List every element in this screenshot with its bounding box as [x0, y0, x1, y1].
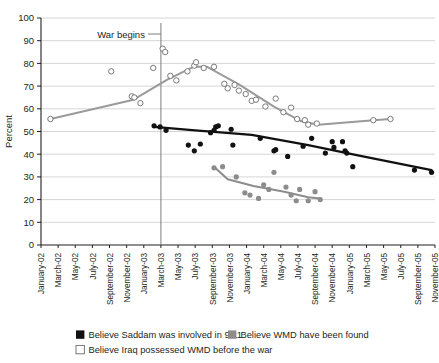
data-point-saddam-911 [412, 167, 417, 172]
x-tick-label: May-05 [380, 253, 389, 281]
x-tick-label: January-03 [140, 253, 149, 294]
data-point-iraq-possessed-wmd [201, 65, 206, 70]
data-point-wmd-found [306, 198, 311, 203]
y-tick-label: 50 [23, 126, 34, 137]
x-tick-label: July-02 [89, 253, 98, 280]
data-point-wmd-found [271, 170, 276, 175]
data-point-iraq-possessed-wmd [288, 105, 293, 110]
data-point-wmd-found [283, 185, 288, 190]
data-point-saddam-911 [285, 154, 290, 159]
data-point-iraq-possessed-wmd [306, 122, 311, 127]
x-tick-label: May-03 [174, 253, 183, 281]
data-point-iraq-possessed-wmd [236, 88, 241, 93]
title-strip [0, 0, 439, 8]
data-point-saddam-911 [273, 147, 278, 152]
data-point-wmd-found [242, 190, 247, 195]
data-point-iraq-possessed-wmd [132, 95, 137, 100]
x-tick-label: January-05 [346, 253, 355, 294]
data-point-iraq-possessed-wmd [281, 110, 286, 115]
y-tick-label: 70 [23, 81, 34, 92]
trend-line-wmd-found [214, 167, 320, 199]
data-point-saddam-911 [151, 123, 156, 128]
data-point-iraq-possessed-wmd [211, 64, 216, 69]
data-point-saddam-911 [163, 128, 168, 133]
data-point-wmd-found [294, 198, 299, 203]
chart-container: 0102030405060708090100PercentJanuary-02M… [0, 0, 439, 363]
data-point-iraq-possessed-wmd [253, 97, 258, 102]
data-point-saddam-911 [186, 143, 191, 148]
y-tick-label: 10 [23, 217, 34, 228]
data-point-saddam-911 [301, 144, 306, 149]
data-point-iraq-possessed-wmd [109, 69, 114, 74]
y-tick-label: 0 [29, 239, 34, 250]
y-tick-label: 90 [23, 35, 34, 46]
trend-line-iraq-possessed-wmd [50, 67, 390, 125]
series-saddam-911 [154, 127, 432, 170]
data-point-wmd-found [289, 192, 294, 197]
x-tick-label: March-03 [157, 253, 166, 288]
data-point-wmd-found [247, 192, 252, 197]
data-point-iraq-possessed-wmd [138, 100, 143, 105]
data-point-iraq-possessed-wmd [273, 96, 278, 101]
legend-label-wmd-found: Believe WMD have been found [241, 330, 369, 340]
data-point-wmd-found [220, 164, 225, 169]
x-tick-label: November-04 [328, 253, 337, 303]
data-point-saddam-911 [309, 136, 314, 141]
data-point-saddam-911 [157, 124, 162, 129]
data-point-iraq-possessed-wmd [243, 91, 248, 96]
data-point-iraq-possessed-wmd [232, 82, 237, 87]
data-point-saddam-911 [198, 141, 203, 146]
poll-trends-scatter-chart: 0102030405060708090100PercentJanuary-02M… [0, 0, 439, 363]
y-tick-label: 40 [23, 149, 34, 160]
legend-swatch-iraq-possessed-wmd [76, 345, 84, 353]
data-point-saddam-911 [344, 150, 349, 155]
x-tick-label: September-05 [414, 253, 423, 305]
legend-label-iraq-possessed-wmd: Believe Iraq possessed WMD before the wa… [89, 345, 273, 355]
series-wmd-found [214, 167, 320, 199]
data-point-wmd-found [256, 196, 261, 201]
y-tick-label: 80 [23, 58, 34, 69]
data-point-iraq-possessed-wmd [388, 116, 393, 121]
y-axis-title: Percent [3, 115, 14, 148]
x-tick-label: July-04 [294, 253, 303, 280]
data-point-iraq-possessed-wmd [168, 73, 173, 78]
y-tick-label: 30 [23, 171, 34, 182]
data-point-saddam-911 [216, 123, 221, 128]
data-point-iraq-possessed-wmd [193, 60, 198, 65]
data-point-saddam-911 [429, 170, 434, 175]
data-point-saddam-911 [340, 139, 345, 144]
trend-line-saddam-911 [154, 127, 432, 170]
data-point-iraq-possessed-wmd [185, 69, 190, 74]
data-point-saddam-911 [323, 150, 328, 155]
data-point-saddam-911 [330, 139, 335, 144]
x-tick-label: July-05 [397, 253, 406, 280]
data-point-saddam-911 [230, 143, 235, 148]
chart-legend: Believe Saddam was involved in 9/11Belie… [76, 330, 369, 355]
y-tick-label: 20 [23, 194, 34, 205]
x-tick-label: September-02 [106, 253, 115, 305]
data-point-saddam-911 [331, 145, 336, 150]
x-tick-label: November-05 [431, 253, 439, 303]
data-point-iraq-possessed-wmd [371, 117, 376, 122]
legend-swatch-saddam-911 [76, 330, 84, 338]
data-point-wmd-found [297, 187, 302, 192]
data-point-saddam-911 [258, 136, 263, 141]
legend-swatch-wmd-found [228, 330, 236, 338]
points-iraq-possessed-wmd [48, 46, 393, 127]
x-tick-label: May-04 [277, 253, 286, 281]
x-tick-label: January-04 [243, 253, 252, 294]
series-iraq-possessed-wmd [50, 67, 390, 125]
data-point-iraq-possessed-wmd [163, 49, 168, 54]
legend-label-saddam-911: Believe Saddam was involved in 9/11 [89, 330, 242, 340]
data-point-iraq-possessed-wmd [174, 78, 179, 83]
data-point-saddam-911 [192, 148, 197, 153]
data-point-wmd-found [318, 197, 323, 202]
x-tick-label: March-05 [363, 253, 372, 288]
data-point-iraq-possessed-wmd [294, 116, 299, 121]
x-tick-label: September-04 [311, 253, 320, 305]
data-point-iraq-possessed-wmd [151, 65, 156, 70]
x-tick-label: November-02 [123, 253, 132, 303]
data-point-wmd-found [261, 182, 266, 187]
x-tick-label: September-03 [209, 253, 218, 305]
x-tick-label: March-04 [260, 253, 269, 288]
